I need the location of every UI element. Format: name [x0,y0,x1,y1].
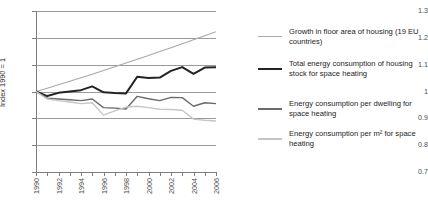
legend-swatch-line [258,138,282,140]
legend-label: Total energy consumption of housing stoc… [289,59,428,78]
x-tick-label: 2002 [167,178,176,194]
x-tick-mark [182,172,183,176]
y-tick-label: 1 [398,88,428,95]
legend-swatch-line [258,36,282,37]
x-tick-mark [194,172,195,176]
legend-swatch-line [258,108,282,110]
series-lines [36,11,216,172]
x-tick-mark [137,172,138,176]
legend-swatch-line [258,68,282,70]
x-tick-label: 1994 [77,178,86,194]
legend-label: Energy consumption per dwelling for spac… [289,99,428,118]
x-tick-mark [81,172,82,176]
x-tick-label: 1996 [100,178,109,194]
x-tick-mark [160,172,161,176]
x-tick-label: 2000 [145,178,154,194]
data-series-line [36,32,216,92]
x-tick-mark [205,172,206,176]
x-tick-mark [36,172,37,176]
x-tick-mark [92,172,93,176]
x-tick-mark [171,172,172,176]
legend-label: Growth in floor area of housing (19 EU c… [289,27,428,46]
x-tick-mark [59,172,60,176]
legend-label: Energy consumption per m² for space heat… [289,129,428,148]
data-series-line [36,67,216,96]
x-tick-mark [47,172,48,176]
y-tick-label: 0.7 [398,168,428,175]
x-tick-mark [126,172,127,176]
x-tick-label: 2006 [212,178,221,194]
plot-area [36,11,216,172]
x-tick-mark [216,172,217,176]
y-axis-title: Index 1990 = 1 [0,58,7,107]
x-tick-mark [104,172,105,176]
x-tick-mark [70,172,71,176]
x-tick-label: 1998 [122,178,131,194]
data-series-line [36,92,216,122]
x-tick-label: 1990 [32,178,41,194]
footer-caption-partial [0,216,428,223]
chart-figure: Index 1990 = 1 1.31.21.110.90.80.7 19901… [0,0,428,223]
x-tick-mark [115,172,116,176]
x-tick-label: 2004 [190,178,199,194]
x-tick-mark [149,172,150,176]
x-tick-label: 1992 [55,178,64,194]
y-tick-label: 1.3 [398,7,428,14]
